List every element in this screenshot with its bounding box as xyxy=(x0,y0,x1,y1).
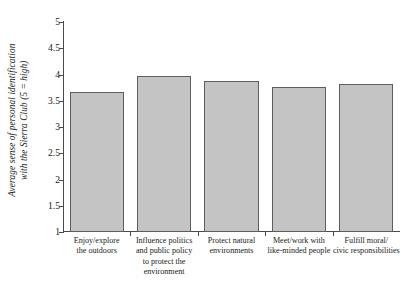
y-axis-tick-label: 5 xyxy=(34,17,60,27)
y-axis-tick-mark xyxy=(59,206,63,207)
y-axis-tick-label: 4 xyxy=(34,70,60,80)
y-axis-title: Average sense of personal identification… xyxy=(0,0,38,240)
x-axis-category-label: Protect naturalenvironments xyxy=(198,236,265,257)
category-label-line: the outdoors xyxy=(63,246,130,256)
category-label-line: environments xyxy=(198,246,265,256)
category-label-line: Protect natural xyxy=(198,236,265,246)
y-axis-tick-mark xyxy=(59,232,63,233)
y-axis-tick-label: 3.5 xyxy=(34,96,60,106)
bar xyxy=(204,81,258,232)
x-axis-category-label: Fulfill moral/civic responsibilities xyxy=(333,236,400,257)
bar xyxy=(272,87,326,232)
bar xyxy=(70,92,124,232)
category-label-line: environment xyxy=(130,267,197,277)
category-label-line: civic responsibilities xyxy=(333,246,400,256)
y-axis-tick-mark xyxy=(59,48,63,49)
category-label-line: Meet/work with xyxy=(265,236,332,246)
y-axis-tick-labels: 54.543.532.521.51 xyxy=(34,0,60,282)
category-label-line: and public policy xyxy=(130,246,197,256)
y-axis-tick-label: 2 xyxy=(34,175,60,185)
plot-area xyxy=(63,22,400,232)
y-axis-tick-label: 1.5 xyxy=(34,201,60,211)
x-axis-category-labels: Enjoy/explorethe outdoorsInfluence polit… xyxy=(63,236,400,282)
category-label-line: Enjoy/explore xyxy=(63,236,130,246)
y-axis-tick-mark xyxy=(59,180,63,181)
y-axis-title-line-2: with the Sierra Club (5 = high) xyxy=(19,43,31,196)
y-axis-tick-mark xyxy=(59,22,63,23)
category-label-line: Influence politics xyxy=(130,236,197,246)
y-axis-tick-mark xyxy=(59,101,63,102)
y-axis-tick-label: 3 xyxy=(34,122,60,132)
category-label-line: like-minded people xyxy=(265,246,332,256)
bar-series xyxy=(63,22,400,232)
y-axis-title-line-1: Average sense of personal identification xyxy=(8,43,18,196)
category-label-line: to protect the xyxy=(130,257,197,267)
category-label-line: Fulfill moral/ xyxy=(333,236,400,246)
y-axis-tick-mark xyxy=(59,127,63,128)
bar xyxy=(339,84,393,232)
y-axis-tick-label: 4.5 xyxy=(34,43,60,53)
bar xyxy=(137,76,191,232)
y-axis-title-text: Average sense of personal identification… xyxy=(7,43,31,196)
y-axis-tick-label: 2.5 xyxy=(34,148,60,158)
x-axis-category-label: Influence politicsand public policyto pr… xyxy=(130,236,197,278)
y-axis-tick-mark xyxy=(59,153,63,154)
bar-chart-figure: Average sense of personal identification… xyxy=(0,0,420,282)
y-axis-tick-label: 1 xyxy=(34,227,60,237)
y-axis-tick-mark xyxy=(59,75,63,76)
x-axis-category-label: Meet/work withlike-minded people xyxy=(265,236,332,257)
x-axis-category-label: Enjoy/explorethe outdoors xyxy=(63,236,130,257)
